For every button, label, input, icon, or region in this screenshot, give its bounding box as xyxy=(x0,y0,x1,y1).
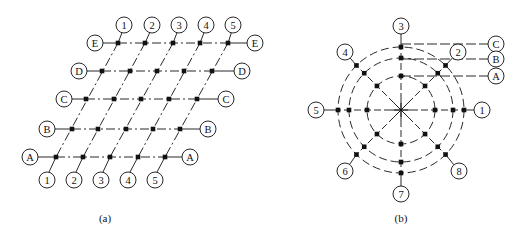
axis-label: E xyxy=(92,38,98,49)
ring-label-C: C xyxy=(488,36,504,52)
ring-label-B: B xyxy=(488,51,504,67)
node-marker-icon xyxy=(362,71,367,76)
node-marker-icon xyxy=(124,127,129,132)
column-label-top-3: 3 xyxy=(171,17,187,33)
node-marker-icon xyxy=(399,45,404,50)
axis-label: C xyxy=(492,39,499,50)
node-marker-icon xyxy=(347,108,352,113)
radial-axis-label-1: 1 xyxy=(474,102,490,118)
axis-label: 4 xyxy=(342,47,348,58)
radial-axis-label-2: 2 xyxy=(450,44,466,60)
axis-label: A xyxy=(492,71,500,82)
row-label-left-D: D xyxy=(71,63,87,79)
node-marker-icon xyxy=(226,41,231,46)
node-marker-icon xyxy=(171,41,176,46)
node-marker-icon xyxy=(195,97,200,102)
figure-a-caption: (a) xyxy=(99,212,112,225)
column-label-top-2: 2 xyxy=(144,17,160,33)
axis-label: A xyxy=(26,152,34,163)
axis-label: 1 xyxy=(121,20,126,31)
row-label-right-E: E xyxy=(247,35,263,51)
node-marker-icon xyxy=(399,74,404,79)
node-marker-icon xyxy=(178,127,183,132)
figure-b-radial-grid: 12345678CBA xyxy=(308,18,504,202)
node-marker-icon xyxy=(116,41,121,46)
node-marker-icon xyxy=(336,108,341,113)
ring-label-A: A xyxy=(488,68,504,84)
axis-label: B xyxy=(204,124,211,135)
axis-label: A xyxy=(186,152,194,163)
axis-label: 3 xyxy=(98,175,103,186)
node-marker-icon xyxy=(182,69,187,74)
node-marker-icon xyxy=(423,132,428,137)
column-label-bottom-3: 3 xyxy=(93,172,109,188)
node-marker-icon xyxy=(399,171,404,176)
radial-axis-label-8: 8 xyxy=(451,163,467,179)
axis-label: C xyxy=(222,94,229,105)
axis-label: 2 xyxy=(455,47,460,58)
axis-label: D xyxy=(238,66,246,77)
axis-label: D xyxy=(75,66,83,77)
axis-label: 2 xyxy=(71,175,76,186)
node-marker-icon xyxy=(54,155,59,160)
row-label-left-C: C xyxy=(56,91,72,107)
axis-label: B xyxy=(43,124,50,135)
axis-label: 4 xyxy=(125,175,131,186)
axis-label: 6 xyxy=(342,166,347,177)
center-spoke xyxy=(401,103,408,110)
node-marker-icon xyxy=(70,127,75,132)
node-marker-icon xyxy=(210,69,215,74)
node-marker-icon xyxy=(143,41,148,46)
node-marker-icon xyxy=(423,84,428,89)
figure-b-caption: (b) xyxy=(395,212,408,225)
node-marker-icon xyxy=(462,108,467,113)
radial-axis-label-6: 6 xyxy=(337,163,353,179)
node-marker-icon xyxy=(354,63,359,68)
column-label-bottom-1: 1 xyxy=(39,172,55,188)
node-marker-icon xyxy=(96,127,101,132)
center-spoke xyxy=(394,103,401,110)
axis-grid-diagram: 1122334455EEDDCCBBAA 12345678CBA (a) (b) xyxy=(0,0,523,237)
radial-axis-label-3: 3 xyxy=(393,18,409,34)
node-marker-icon xyxy=(365,108,370,113)
node-marker-icon xyxy=(443,152,448,157)
axis-label: 1 xyxy=(44,175,49,186)
column-label-bottom-4: 4 xyxy=(120,172,136,188)
axis-label: 5 xyxy=(152,175,157,186)
node-marker-icon xyxy=(375,132,380,137)
node-marker-icon xyxy=(443,63,448,68)
center-spoke xyxy=(394,110,401,117)
node-marker-icon xyxy=(163,155,168,160)
row-label-right-A: A xyxy=(182,149,198,165)
node-marker-icon xyxy=(362,144,367,149)
radial-axis-label-7: 7 xyxy=(393,186,409,202)
node-marker-icon xyxy=(198,41,203,46)
axis-label: E xyxy=(252,38,258,49)
column-label-top-4: 4 xyxy=(198,17,214,33)
node-marker-icon xyxy=(433,108,438,113)
axis-label: 4 xyxy=(203,20,209,31)
node-marker-icon xyxy=(112,97,117,102)
axis-label: 5 xyxy=(313,105,318,116)
axis-label: 2 xyxy=(149,20,154,31)
row-label-left-B: B xyxy=(39,121,55,137)
node-marker-icon xyxy=(354,152,359,157)
axis-label: 7 xyxy=(398,189,403,200)
node-marker-icon xyxy=(139,97,144,102)
row-label-left-E: E xyxy=(87,35,103,51)
row-label-right-B: B xyxy=(200,121,216,137)
node-marker-icon xyxy=(435,71,440,76)
figure-a-oblique-grid: 1122334455EEDDCCBBAA xyxy=(22,17,263,188)
row-label-right-C: C xyxy=(218,91,234,107)
node-marker-icon xyxy=(155,69,160,74)
node-marker-icon xyxy=(128,69,133,74)
node-marker-icon xyxy=(81,155,86,160)
column-label-top-1: 1 xyxy=(116,17,132,33)
axis-label: B xyxy=(492,54,499,65)
column-label-bottom-2: 2 xyxy=(66,172,82,188)
radial-axis-label-5: 5 xyxy=(308,102,324,118)
axis-label: 8 xyxy=(456,166,461,177)
axis-label: 1 xyxy=(479,105,484,116)
column-label-top-5: 5 xyxy=(225,17,241,33)
axis-label: 3 xyxy=(398,21,403,32)
